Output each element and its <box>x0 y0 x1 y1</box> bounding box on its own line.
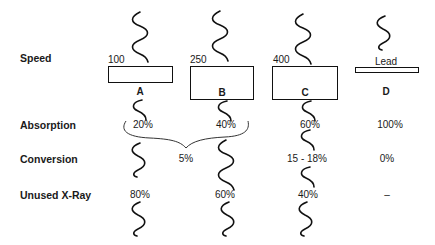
column-label-d: D <box>382 86 389 97</box>
conversion-value-c: 15 - 18% <box>287 153 327 164</box>
x-ray-wave-icon <box>221 202 234 236</box>
speed-value-c: 400 <box>273 54 290 65</box>
speed-value-b: 250 <box>190 54 207 65</box>
x-ray-wave-icon <box>133 12 149 62</box>
unused-value-d: – <box>384 189 390 200</box>
plate-label-lead: Lead <box>375 56 397 67</box>
lead-plate-d <box>355 67 419 73</box>
unused-value-c: 40% <box>298 189 318 200</box>
x-ray-wave-icon <box>296 14 312 64</box>
x-ray-wave-icon <box>302 101 315 121</box>
x-ray-wave-icon <box>133 100 146 120</box>
x-ray-wave-icon <box>219 140 235 190</box>
conversion-value-ab: 5% <box>179 153 193 164</box>
x-ray-wave-icon <box>132 143 145 177</box>
column-label-c: C <box>301 87 308 98</box>
x-ray-wave-icon <box>213 11 229 61</box>
column-label-a: A <box>136 86 143 97</box>
x-ray-wave-icon <box>377 16 390 50</box>
absorption-value-b: 40% <box>216 119 236 130</box>
screen-a <box>108 66 173 83</box>
unused-value-b: 60% <box>215 189 235 200</box>
x-ray-wave-icon <box>218 101 231 121</box>
absorption-value-d: 100% <box>377 119 403 130</box>
conversion-value-d: 0% <box>380 153 394 164</box>
absorption-value-a: 20% <box>133 119 153 130</box>
x-ray-wave-icon <box>299 202 312 236</box>
speed-value-a: 100 <box>108 54 125 65</box>
x-ray-wave-icon <box>301 167 314 187</box>
x-ray-wave-icon <box>301 130 314 150</box>
x-ray-wave-icon <box>132 202 145 236</box>
unused-value-a: 80% <box>130 189 150 200</box>
column-label-b: B <box>218 87 225 98</box>
absorption-value-c: 60% <box>300 119 320 130</box>
